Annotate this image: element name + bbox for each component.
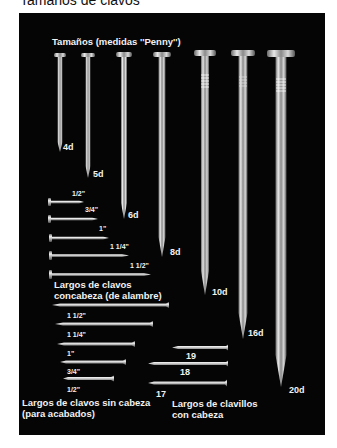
finishing-nail-icon <box>60 358 128 366</box>
nail-10d-icon <box>193 49 217 297</box>
nail-4d-label: 4d <box>63 142 74 152</box>
brad-nail-icon <box>172 344 230 351</box>
wire-nail-size-label: 1" <box>99 224 106 234</box>
finishing-nail-icon <box>63 375 115 382</box>
nail-20d-icon <box>266 49 296 389</box>
nail-4d-icon <box>52 52 68 154</box>
finishing-nails-caption-line2: (para acabados) <box>22 408 95 419</box>
finishing-nail-icon <box>52 301 170 309</box>
nail-6d-label: 6d <box>128 210 139 220</box>
wire-nail-icon <box>47 215 99 223</box>
finishing-nail-size-label: 1/2" <box>67 385 80 395</box>
wire-nail-icon <box>47 198 85 206</box>
penny-sizes-header: Tamaños (medidas ''Penny'') <box>52 37 181 47</box>
wire-nails-caption-line2: concabeza (de alambre) <box>54 290 162 301</box>
finishing-nail-size-label: 1 1/4" <box>67 330 86 340</box>
finishing-nail-icon <box>55 320 155 328</box>
nail-5d-label: 5d <box>93 169 104 179</box>
brads-caption-line2: con cabeza <box>172 409 223 420</box>
nail-20d-label: 20d <box>289 385 305 395</box>
nail-16d-label: 16d <box>248 328 264 338</box>
wire-nail-size-label: 3/4" <box>85 205 98 215</box>
brad-size-label: 17 <box>156 389 166 399</box>
brads-caption-line1: Largos de clavillos <box>172 398 258 409</box>
wire-nail-icon <box>48 234 110 242</box>
brad-nail-icon <box>148 360 230 367</box>
nail-8d-icon <box>151 51 173 259</box>
nail-16d-icon <box>230 49 256 341</box>
nail-5d-icon <box>79 52 97 180</box>
brad-nail-icon <box>148 379 230 387</box>
nail-6d-icon <box>114 51 134 221</box>
nail-10d-label: 10d <box>212 287 228 297</box>
finishing-nail-icon <box>57 340 137 348</box>
nail-8d-label: 8d <box>170 247 181 257</box>
wire-nails-caption-line1: Largos de clavos <box>54 279 132 290</box>
wire-nail-icon <box>48 251 130 260</box>
finishing-nails-caption-line1: Largos de clavos sin cabeza <box>22 397 150 408</box>
document-title: Tamaños de clavos <box>20 0 140 8</box>
wire-nail-icon <box>48 270 152 279</box>
brad-size-label: 18 <box>180 367 190 377</box>
